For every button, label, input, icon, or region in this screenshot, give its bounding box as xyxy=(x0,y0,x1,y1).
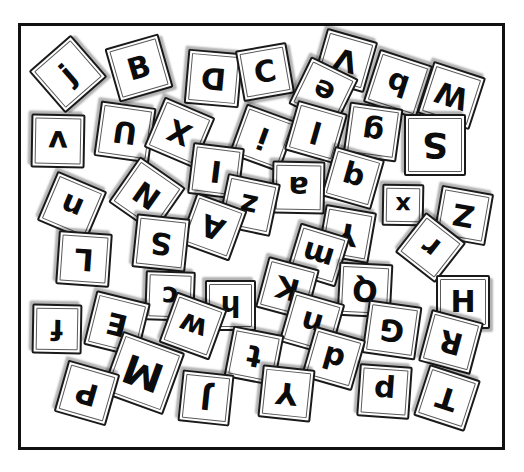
letter-tile-glyph: U xyxy=(111,115,139,148)
letter-tile[interactable]: J xyxy=(177,369,234,426)
letter-tile[interactable]: S xyxy=(131,213,190,272)
letter-tile-glyph: A xyxy=(197,209,229,245)
letter-tile[interactable]: p xyxy=(356,363,413,420)
letter-tile-glyph: p xyxy=(373,376,397,407)
letter-tile-glyph: R xyxy=(436,325,466,360)
tile-scene-canvas: jBDCVebWvUXilgSIqanNzxZASYrLmQcKhHEfwnGR… xyxy=(0,0,524,472)
letter-tile-glyph: M xyxy=(117,347,168,398)
letter-tile-glyph: v xyxy=(48,126,68,156)
letter-tile-glyph: S xyxy=(422,127,448,163)
letter-tile-glyph: L xyxy=(73,243,94,274)
letter-tile[interactable]: B xyxy=(104,33,173,102)
letter-tile-glyph: j xyxy=(54,59,81,88)
letter-tile[interactable]: S xyxy=(404,114,466,176)
letter-tile-glyph: g xyxy=(360,116,385,149)
letter-tile-glyph: D xyxy=(200,62,227,94)
letter-tile[interactable]: G xyxy=(362,300,423,361)
letter-tile-glyph: l xyxy=(307,116,325,148)
letter-tile-glyph: Y xyxy=(274,377,299,409)
letter-tile-glyph: P xyxy=(72,376,101,411)
letter-tiles-layer: jBDCVebWvUXilgSIqanNzxZASYrLmQcKhHEfwnGR… xyxy=(0,0,524,472)
letter-tile[interactable]: C xyxy=(235,42,295,102)
letter-tile-glyph: d xyxy=(319,341,348,376)
letter-tile[interactable]: U xyxy=(93,100,156,163)
letter-tile-glyph: N xyxy=(128,176,166,215)
letter-tile-glyph: b xyxy=(383,66,413,101)
letter-tile-glyph: Z xyxy=(450,199,477,232)
letter-tile-glyph: q xyxy=(339,161,368,196)
letter-tile-glyph: r xyxy=(415,231,445,264)
letter-tile[interactable]: f xyxy=(32,304,83,355)
letter-tile-glyph: G xyxy=(378,313,407,346)
letter-tile[interactable]: L xyxy=(55,230,113,288)
letter-tile-glyph: t xyxy=(244,340,264,372)
letter-tile-glyph: W xyxy=(431,76,472,115)
letter-tile[interactable]: D xyxy=(184,49,244,109)
letter-tile[interactable]: T xyxy=(413,364,481,432)
letter-tile-glyph: T xyxy=(433,381,462,416)
letter-tile[interactable]: Y xyxy=(257,364,315,422)
letter-tile-glyph: I xyxy=(209,155,224,186)
letter-tile[interactable]: v xyxy=(31,114,86,169)
letter-tile-glyph: C xyxy=(252,55,279,88)
letter-tile-glyph: w xyxy=(175,307,211,345)
letter-tile-glyph: a xyxy=(288,172,309,202)
letter-tile-glyph: S xyxy=(149,227,174,259)
letter-tile[interactable]: j xyxy=(28,34,107,113)
letter-tile-glyph: x xyxy=(395,193,411,217)
letter-tile-glyph: H xyxy=(450,287,475,317)
letter-tile-glyph: J xyxy=(199,382,213,413)
letter-tile-glyph: X xyxy=(163,114,196,151)
letter-tile-glyph: B xyxy=(124,50,154,85)
letter-tile-glyph: i xyxy=(253,122,273,154)
letter-tile-glyph: f xyxy=(51,315,64,343)
letter-tile-glyph: n xyxy=(56,188,87,224)
